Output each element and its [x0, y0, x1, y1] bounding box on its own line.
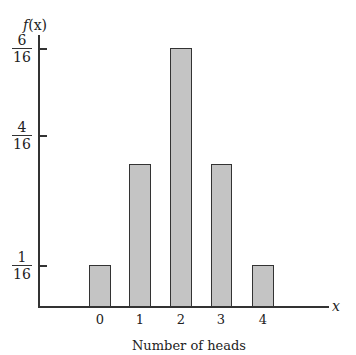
- y-tick-label-1-16: 116: [10, 250, 34, 281]
- x-tick-label-2: 2: [171, 312, 191, 327]
- x-tick-label-1: 1: [130, 312, 150, 327]
- y-tick-label-6-16: 616: [10, 33, 34, 64]
- x-axis-label: Number of heads: [0, 338, 356, 353]
- y-tick-label-4-16: 416: [10, 120, 34, 151]
- bar-4: [252, 265, 274, 307]
- bar-1: [129, 164, 151, 307]
- x-tick-label-4: 4: [253, 312, 273, 327]
- x-tick-label-3: 3: [211, 312, 231, 327]
- x-tick-label-0: 0: [90, 312, 110, 327]
- y-tick-1-16: [40, 265, 47, 267]
- y-tick-6-16: [40, 48, 47, 50]
- y-tick-4-16: [40, 135, 47, 137]
- y-axis: [38, 35, 40, 308]
- x-axis-variable: x: [332, 298, 340, 314]
- bar-0: [89, 265, 111, 307]
- y-axis-label: f(x): [23, 17, 47, 33]
- bar-2: [170, 48, 192, 307]
- bar-3: [211, 164, 232, 307]
